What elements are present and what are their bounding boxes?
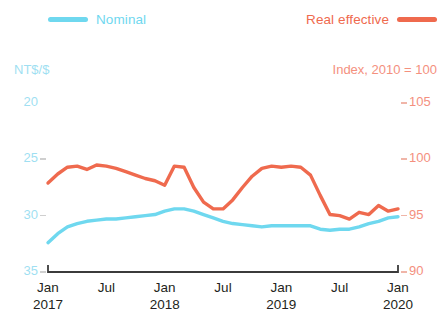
plot-area: [0, 0, 445, 330]
series-line-real-effective: [48, 165, 398, 219]
exchange-rate-chart: Nominal Real effective NT$/$ Index, 2010…: [0, 0, 445, 330]
axis-lines: [48, 265, 398, 272]
series-line-nominal: [48, 209, 398, 243]
